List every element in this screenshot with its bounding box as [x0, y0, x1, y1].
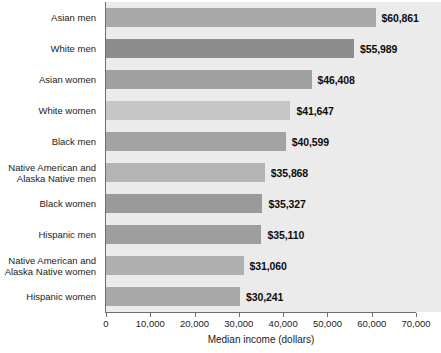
category-label: White women: [0, 105, 96, 116]
category-label-line: Black women: [0, 198, 96, 209]
bar: [106, 163, 265, 182]
category-label: Hispanic men: [0, 229, 96, 240]
x-axis-tick: [150, 313, 151, 317]
bar-value-label: $35,868: [271, 167, 308, 179]
x-axis-tick-label: 20,000: [180, 318, 209, 329]
bar-value-label: $35,327: [268, 198, 305, 210]
category-label: Asian women: [0, 74, 96, 85]
category-label-line: Hispanic women: [0, 291, 96, 302]
bar: [106, 8, 376, 27]
category-label: Native American andAlaska Native men: [0, 162, 96, 184]
category-label-line: Hispanic men: [0, 229, 96, 240]
x-axis-tick-label: 60,000: [357, 318, 386, 329]
bar-value-label: $40,599: [292, 136, 329, 148]
bar-value-label: $55,989: [360, 43, 397, 55]
x-axis-tick: [327, 313, 328, 317]
bar-value-label: $35,110: [267, 229, 304, 241]
category-label-line: White men: [0, 43, 96, 54]
x-axis-tick-label: 50,000: [313, 318, 342, 329]
bar: [106, 70, 312, 89]
x-axis-tick: [195, 313, 196, 317]
bar-value-label: $41,647: [296, 105, 333, 117]
x-axis-tick: [239, 313, 240, 317]
bar: [106, 256, 244, 275]
category-label-line: White women: [0, 105, 96, 116]
x-axis-tick-label: 30,000: [224, 318, 253, 329]
x-axis-tick-label: 40,000: [269, 318, 298, 329]
category-label-line: Black men: [0, 136, 96, 147]
x-axis-title: Median income (dollars): [106, 334, 416, 345]
x-axis-tick: [372, 313, 373, 317]
bar: [106, 132, 286, 151]
bar-value-label: $60,861: [382, 12, 419, 24]
category-label-line: Asian men: [0, 12, 96, 23]
bar: [106, 225, 261, 244]
category-label: Asian men: [0, 12, 96, 23]
bar-value-label: $30,241: [246, 291, 283, 303]
x-axis-tick: [416, 313, 417, 317]
category-label: Hispanic women: [0, 291, 96, 302]
x-axis-tick-label: 10,000: [136, 318, 165, 329]
category-label: Black men: [0, 136, 96, 147]
category-label-line: Native American and: [0, 162, 96, 173]
category-label: White men: [0, 43, 96, 54]
bar-chart: Asian menWhite menAsian womenWhite women…: [0, 0, 441, 353]
bar: [106, 194, 262, 213]
bar: [106, 287, 240, 306]
bar: [106, 101, 290, 120]
x-axis-tick: [106, 313, 107, 317]
category-label-line: Asian women: [0, 74, 96, 85]
x-axis-line: [106, 312, 416, 313]
category-label-line: Alaska Native women: [0, 266, 96, 277]
bar-value-label: $31,060: [250, 260, 287, 272]
category-label-line: Native American and: [0, 255, 96, 266]
category-label: Black women: [0, 198, 96, 209]
x-axis-tick-label: 0: [103, 318, 108, 329]
category-axis-labels: Asian menWhite menAsian womenWhite women…: [0, 0, 101, 312]
category-label-line: Alaska Native men: [0, 173, 96, 184]
category-label: Native American andAlaska Native women: [0, 255, 96, 277]
x-axis-tick-label: 70,000: [401, 318, 430, 329]
y-axis-line: [105, 2, 106, 313]
bar-value-label: $46,408: [318, 74, 355, 86]
x-axis-tick: [283, 313, 284, 317]
bar: [106, 39, 354, 58]
